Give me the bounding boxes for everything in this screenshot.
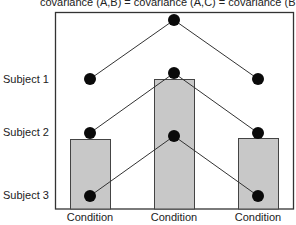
point-s1-c3 — [252, 73, 264, 85]
condition-1-label: Condition — [50, 211, 130, 223]
condition-2-label: Condition — [134, 211, 214, 223]
subject-3-label: Subject 3 — [3, 189, 49, 201]
subject-1-label: Subject 1 — [3, 73, 49, 85]
subject-2-label: Subject 2 — [3, 126, 49, 138]
point-s2-c3 — [252, 127, 264, 139]
point-s2-c1 — [84, 127, 96, 139]
condition-3-label: Condition — [218, 211, 296, 223]
bar-condition-2 — [155, 80, 195, 210]
point-s1-c2 — [168, 14, 180, 26]
point-s3-c2 — [168, 130, 180, 142]
point-s2-c2 — [168, 67, 180, 79]
point-s1-c1 — [84, 73, 96, 85]
point-s3-c1 — [84, 190, 96, 202]
point-s3-c3 — [252, 190, 264, 202]
